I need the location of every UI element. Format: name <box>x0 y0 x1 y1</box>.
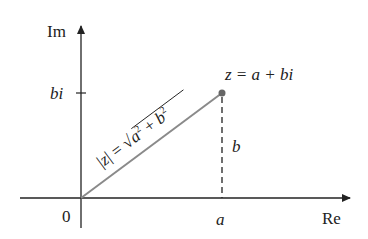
point-label: z = a + bi <box>224 65 294 84</box>
modulus-label: |z| = √a2 + b2 <box>92 88 194 171</box>
imaginary-axis-label: Im <box>47 22 66 41</box>
modulus-vector <box>81 93 222 198</box>
complex-plane-diagram: Im Re 0 bi a z = a + bi b |z| = √a2 + b2 <box>0 0 368 239</box>
point-z <box>219 90 226 97</box>
real-tick-label: a <box>216 210 225 229</box>
origin-label: 0 <box>62 207 71 226</box>
real-axis-label: Re <box>322 209 341 228</box>
imaginary-tick-label: bi <box>50 84 64 103</box>
vertical-segment-label: b <box>232 137 241 156</box>
